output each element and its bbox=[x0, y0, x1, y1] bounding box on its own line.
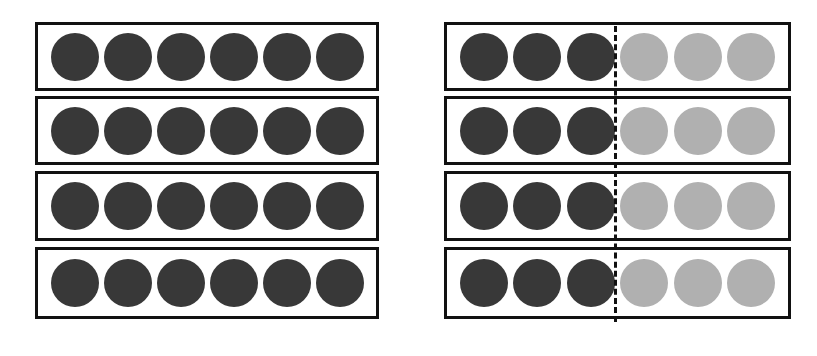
dark-circle bbox=[567, 107, 615, 155]
dark-circle bbox=[210, 33, 258, 81]
dark-circle bbox=[316, 259, 364, 307]
dark-circle bbox=[513, 33, 561, 81]
dark-circle bbox=[460, 107, 508, 155]
dark-circle bbox=[316, 107, 364, 155]
light-circle bbox=[727, 33, 775, 81]
dark-circle bbox=[210, 107, 258, 155]
right-frame-1 bbox=[444, 22, 791, 91]
right-frame-2 bbox=[444, 96, 791, 165]
light-circle bbox=[674, 259, 722, 307]
dark-circle bbox=[51, 259, 99, 307]
dark-circle bbox=[460, 33, 508, 81]
right-frame-3 bbox=[444, 171, 791, 241]
dark-circle bbox=[567, 33, 615, 81]
light-circle bbox=[620, 182, 668, 230]
dark-circle bbox=[51, 107, 99, 155]
left-frame-3 bbox=[35, 171, 379, 241]
dark-circle bbox=[263, 182, 311, 230]
dark-circle bbox=[104, 259, 152, 307]
dark-circle bbox=[513, 259, 561, 307]
dark-circle bbox=[263, 33, 311, 81]
dark-circle bbox=[316, 33, 364, 81]
dark-circle bbox=[513, 182, 561, 230]
light-circle bbox=[674, 182, 722, 230]
left-frame-1 bbox=[35, 22, 379, 91]
dark-circle bbox=[567, 259, 615, 307]
light-circle bbox=[674, 107, 722, 155]
dark-circle bbox=[316, 182, 364, 230]
dark-circle bbox=[51, 182, 99, 230]
dark-circle bbox=[460, 182, 508, 230]
light-circle bbox=[727, 107, 775, 155]
dark-circle bbox=[157, 259, 205, 307]
dark-circle bbox=[210, 182, 258, 230]
left-frame-2 bbox=[35, 96, 379, 165]
light-circle bbox=[727, 182, 775, 230]
dark-circle bbox=[263, 107, 311, 155]
dark-circle bbox=[567, 182, 615, 230]
right-frame-4 bbox=[444, 247, 791, 319]
light-circle bbox=[620, 33, 668, 81]
light-circle bbox=[620, 107, 668, 155]
light-circle bbox=[727, 259, 775, 307]
dark-circle bbox=[104, 107, 152, 155]
left-frame-4 bbox=[35, 247, 379, 319]
dark-circle bbox=[157, 182, 205, 230]
light-circle bbox=[620, 259, 668, 307]
dark-circle bbox=[263, 259, 311, 307]
dark-circle bbox=[104, 182, 152, 230]
dark-circle bbox=[104, 33, 152, 81]
dark-circle bbox=[157, 107, 205, 155]
dark-circle bbox=[210, 259, 258, 307]
dark-circle bbox=[157, 33, 205, 81]
dark-circle bbox=[51, 33, 99, 81]
dashed-divider-line bbox=[614, 26, 617, 322]
dark-circle bbox=[460, 259, 508, 307]
light-circle bbox=[674, 33, 722, 81]
dark-circle bbox=[513, 107, 561, 155]
